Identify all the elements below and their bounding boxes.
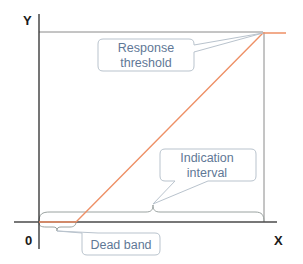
- dead-band-label: Dead band: [90, 238, 151, 252]
- x-axis-label: X: [274, 233, 283, 248]
- indication-interval-label-line1: Indication: [180, 151, 234, 165]
- characteristic-diagram: Y 0 X Response threshold Indication inte…: [0, 0, 303, 264]
- response-threshold-label-line1: Response: [118, 41, 174, 55]
- indication-interval-callout: Indication interval: [153, 149, 256, 204]
- y-axis-label: Y: [23, 13, 32, 28]
- dead-band-brace: [39, 222, 76, 231]
- indication-interval-label-line2: interval: [187, 166, 227, 180]
- response-threshold-callout: Response threshold: [98, 33, 263, 71]
- response-threshold-label-line2: threshold: [120, 56, 171, 70]
- indication-interval-brace: [39, 205, 264, 222]
- origin-label: 0: [25, 233, 32, 248]
- dead-band-callout: Dead band: [57, 231, 160, 255]
